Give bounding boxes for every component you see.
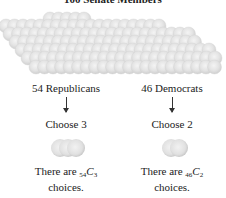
democrats-selection-balls bbox=[162, 139, 188, 157]
democrats-label: 46 Democrats bbox=[122, 82, 222, 94]
republicans-label: 54 Republicans bbox=[16, 82, 116, 94]
ball bbox=[170, 139, 188, 157]
democrats-choose-label: Choose 2 bbox=[122, 118, 222, 130]
republicans-selection-balls bbox=[51, 139, 85, 157]
down-arrow-icon bbox=[172, 97, 173, 112]
democrats-choices-text: There are 46C2 choices. bbox=[122, 165, 222, 193]
republicans-choose-label: Choose 3 bbox=[16, 118, 116, 130]
senate-members-pile bbox=[0, 0, 226, 80]
ball bbox=[67, 139, 85, 157]
member-ball bbox=[208, 60, 222, 74]
republicans-choices-text: There are 54C3 choices. bbox=[16, 165, 116, 193]
down-arrow-icon bbox=[66, 97, 67, 112]
